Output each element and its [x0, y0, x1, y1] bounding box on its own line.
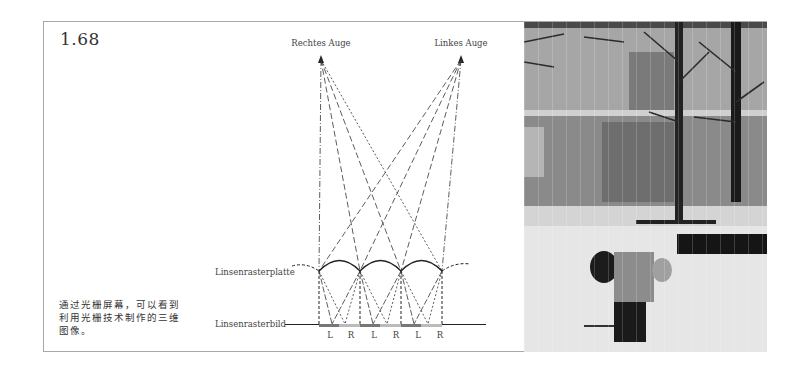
refracted-rays: [319, 271, 442, 324]
image-strips: [319, 324, 442, 327]
strip-labels: L R L R L R: [327, 330, 444, 340]
strip-label: L: [415, 330, 421, 340]
left-eye-label: Linkes Auge: [434, 38, 487, 48]
lens-plate-label: Linsenrasterplatte: [215, 267, 295, 277]
photo-illustration: [524, 22, 767, 352]
strip-label: R: [437, 330, 444, 340]
lens-verticals: [319, 271, 442, 324]
strip-label: R: [393, 330, 400, 340]
left-eye-rays: [319, 60, 461, 271]
right-eye-rays: [319, 60, 442, 271]
strip-label: L: [327, 330, 333, 340]
lens-image-label: Linsenrasterbild: [215, 319, 287, 329]
right-eye-label: Rechtes Auge: [291, 38, 350, 48]
lenticular-photo: [524, 22, 767, 352]
strip-label: L: [371, 330, 377, 340]
strip-label: R: [348, 330, 355, 340]
